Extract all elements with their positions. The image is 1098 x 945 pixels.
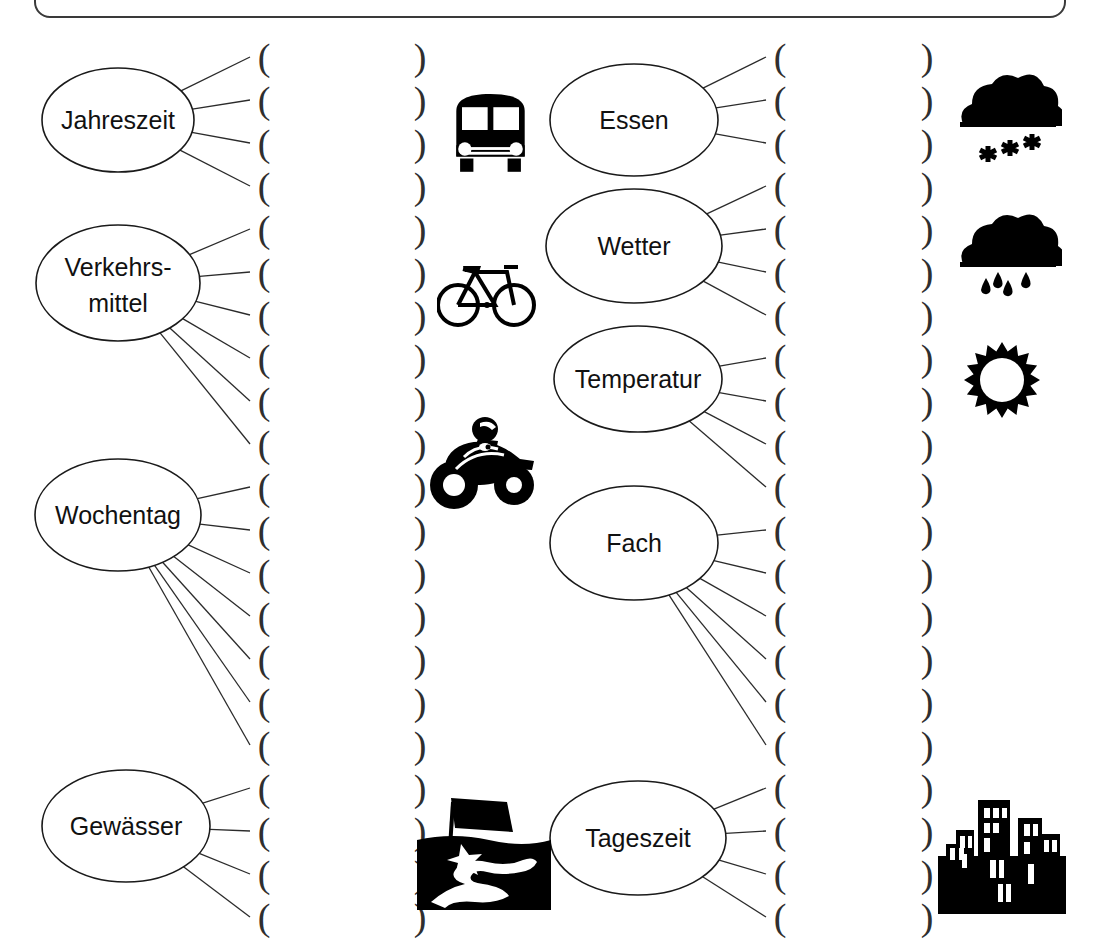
connector-temperatur-1 (719, 358, 766, 366)
blank-left-close-11[interactable]: ) (410, 468, 430, 506)
connector-wochentag-3 (188, 545, 250, 573)
blank-right-open-10[interactable]: ( (770, 425, 790, 463)
blank-right-close-2[interactable]: ) (917, 81, 937, 119)
blank-right-open-15[interactable]: ( (770, 640, 790, 678)
blank-right-open-20[interactable]: ( (770, 855, 790, 893)
connector-temperatur-4 (689, 421, 766, 487)
node-group-wochentag: Wochentag (35, 459, 250, 745)
blank-right-close-8[interactable]: ) (917, 339, 937, 377)
blank-right-open-4[interactable]: ( (770, 167, 790, 205)
blank-right-open-3[interactable]: ( (770, 124, 790, 162)
blank-right-close-15[interactable]: ) (917, 640, 937, 678)
blank-left-open-13[interactable]: ( (254, 554, 274, 592)
blank-right-close-13[interactable]: ) (917, 554, 937, 592)
connector-wochentag-2 (200, 524, 250, 530)
blank-left-open-10[interactable]: ( (254, 425, 274, 463)
blank-right-open-11[interactable]: ( (770, 468, 790, 506)
blank-right-close-7[interactable]: ) (917, 296, 937, 334)
blank-left-close-2[interactable]: ) (410, 81, 430, 119)
blank-right-open-6[interactable]: ( (770, 253, 790, 291)
blank-right-open-2[interactable]: ( (770, 81, 790, 119)
blank-left-close-16[interactable]: ) (410, 683, 430, 721)
connector-verkehrsmittel-1 (190, 229, 250, 255)
worksheet-sheet: JahreszeitVerkehrs-mittelWochentagGewäss… (0, 0, 1098, 945)
blank-right-open-13[interactable]: ( (770, 554, 790, 592)
blank-left-close-4[interactable]: ) (410, 167, 430, 205)
blank-right-close-1[interactable]: ) (917, 38, 937, 76)
blank-left-close-15[interactable]: ) (410, 640, 430, 678)
blank-left-close-10[interactable]: ) (410, 425, 430, 463)
blank-left-open-15[interactable]: ( (254, 640, 274, 678)
connector-wochentag-7 (149, 567, 250, 745)
blank-right-close-3[interactable]: ) (917, 124, 937, 162)
blank-left-open-17[interactable]: ( (254, 726, 274, 764)
blank-left-close-3[interactable]: ) (410, 124, 430, 162)
blank-left-open-4[interactable]: ( (254, 167, 274, 205)
snow-cloud-icon (952, 68, 1062, 163)
blank-right-open-18[interactable]: ( (770, 769, 790, 807)
blank-right-close-10[interactable]: ) (917, 425, 937, 463)
blank-right-close-11[interactable]: ) (917, 468, 937, 506)
blank-left-close-13[interactable]: ) (410, 554, 430, 592)
blank-left-open-9[interactable]: ( (254, 382, 274, 420)
blank-left-close-6[interactable]: ) (410, 253, 430, 291)
city-skyline-icon (932, 790, 1072, 920)
blank-right-close-16[interactable]: ) (917, 683, 937, 721)
blank-left-open-20[interactable]: ( (254, 855, 274, 893)
blank-left-close-1[interactable]: ) (410, 38, 430, 76)
connector-fach-3 (700, 578, 766, 616)
blank-right-close-4[interactable]: ) (917, 167, 937, 205)
blank-left-open-16[interactable]: ( (254, 683, 274, 721)
node-ellipse-verkehrsmittel[interactable] (36, 225, 200, 341)
blank-right-open-17[interactable]: ( (770, 726, 790, 764)
blank-right-open-21[interactable]: ( (770, 898, 790, 936)
node-group-essen: Essen (550, 57, 766, 176)
blank-right-open-16[interactable]: ( (770, 683, 790, 721)
blank-left-close-14[interactable]: ) (410, 597, 430, 635)
blank-left-close-17[interactable]: ) (410, 726, 430, 764)
blank-right-open-9[interactable]: ( (770, 382, 790, 420)
blank-right-close-6[interactable]: ) (917, 253, 937, 291)
blank-left-open-21[interactable]: ( (254, 898, 274, 936)
blank-right-close-14[interactable]: ) (917, 597, 937, 635)
connector-essen-1 (703, 57, 766, 88)
blank-left-open-1[interactable]: ( (254, 38, 274, 76)
blank-left-open-8[interactable]: ( (254, 339, 274, 377)
blank-left-open-5[interactable]: ( (254, 210, 274, 248)
blank-left-open-7[interactable]: ( (254, 296, 274, 334)
blank-right-open-5[interactable]: ( (770, 210, 790, 248)
node-label-verkehrsmittel: Verkehrs- (65, 253, 172, 281)
connector-wetter-3 (718, 262, 766, 272)
blank-right-open-8[interactable]: ( (770, 339, 790, 377)
blank-left-close-12[interactable]: ) (410, 511, 430, 549)
blank-right-open-14[interactable]: ( (770, 597, 790, 635)
blank-left-close-9[interactable]: ) (410, 382, 430, 420)
blank-left-open-11[interactable]: ( (254, 468, 274, 506)
connector-essen-3 (715, 134, 766, 143)
blank-right-close-12[interactable]: ) (917, 511, 937, 549)
blank-left-open-18[interactable]: ( (254, 769, 274, 807)
blank-left-open-3[interactable]: ( (254, 124, 274, 162)
blank-left-open-2[interactable]: ( (254, 81, 274, 119)
blank-left-close-5[interactable]: ) (410, 210, 430, 248)
connector-tageszeit-4 (703, 877, 766, 917)
connector-temperatur-3 (704, 412, 766, 444)
node-group-gewaesser: Gewässer (42, 770, 250, 917)
blank-left-open-12[interactable]: ( (254, 511, 274, 549)
blank-right-open-19[interactable]: ( (770, 812, 790, 850)
blank-left-close-7[interactable]: ) (410, 296, 430, 334)
connector-verkehrsmittel-5 (170, 328, 250, 401)
blank-left-open-6[interactable]: ( (254, 253, 274, 291)
node-group-verkehrsmittel: Verkehrs-mittel (36, 225, 250, 444)
blank-right-close-9[interactable]: ) (917, 382, 937, 420)
connector-fach-1 (717, 530, 766, 535)
blank-right-close-5[interactable]: ) (917, 210, 937, 248)
blank-left-open-19[interactable]: ( (254, 812, 274, 850)
blank-right-open-7[interactable]: ( (770, 296, 790, 334)
blank-right-open-1[interactable]: ( (770, 38, 790, 76)
node-group-fach: Fach (550, 486, 766, 745)
blank-right-close-17[interactable]: ) (917, 726, 937, 764)
blank-right-open-12[interactable]: ( (770, 511, 790, 549)
blank-left-open-14[interactable]: ( (254, 597, 274, 635)
blank-left-close-8[interactable]: ) (410, 339, 430, 377)
